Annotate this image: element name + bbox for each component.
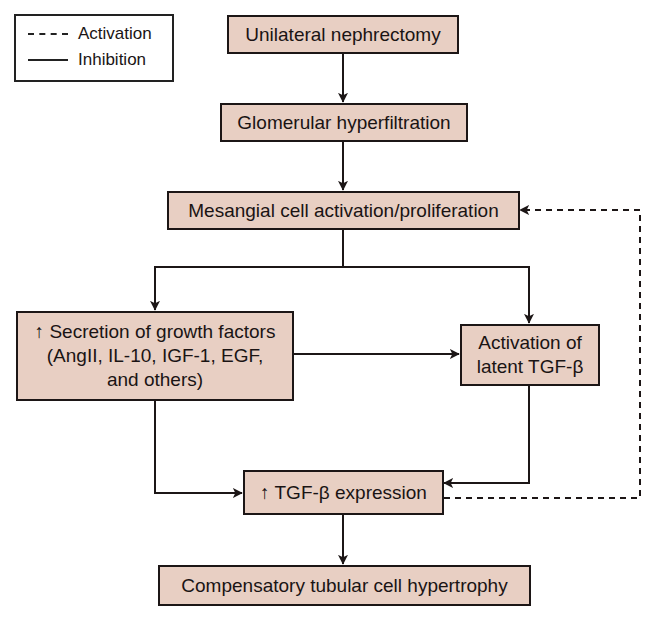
node-label-line-1: Activation of <box>478 331 582 355</box>
edge-n3-n4 <box>155 267 343 310</box>
node-growth-factor-secretion: ↑ Secretion of growth factors (AngII, IL… <box>16 311 294 401</box>
node-glomerular-hyperfiltration: Glomerular hyperfiltration <box>220 103 468 142</box>
dashed-line-sample <box>28 33 68 35</box>
legend-label: Inhibition <box>78 50 146 70</box>
connector-layer <box>0 0 653 620</box>
node-tgf-expression: ↑ TGF-β expression <box>243 470 444 515</box>
node-label: ↑ TGF-β expression <box>260 481 427 505</box>
node-label: Unilateral nephrectomy <box>245 23 440 47</box>
node-latent-tgf-activation: Activation of latent TGF-β <box>460 324 600 386</box>
node-label: Mesangial cell activation/proliferation <box>188 199 499 223</box>
node-label-line-1: ↑ Secretion of growth factors <box>35 320 276 344</box>
node-label: Compensatory tubular cell hypertrophy <box>181 574 507 598</box>
node-unilateral-nephrectomy: Unilateral nephrectomy <box>227 15 459 54</box>
solid-line-sample <box>28 59 68 61</box>
node-label-line-2: latent TGF-β <box>477 355 584 379</box>
node-label-line-2: (AngII, IL-10, IGF-1, EGF, <box>47 344 263 368</box>
edge-n3-n5 <box>343 267 529 323</box>
edge-n5-n6 <box>444 385 529 483</box>
legend-label: Activation <box>78 24 152 44</box>
node-label: Glomerular hyperfiltration <box>237 111 450 135</box>
legend-item-inhibition: Inhibition <box>28 50 146 70</box>
legend-item-activation: Activation <box>28 24 152 44</box>
edge-n4-n6 <box>155 400 242 493</box>
node-label-line-3: and others) <box>107 368 203 392</box>
legend: Activation Inhibition <box>14 14 174 82</box>
node-tubular-hypertrophy: Compensatory tubular cell hypertrophy <box>158 565 531 606</box>
node-mesangial-activation: Mesangial cell activation/proliferation <box>167 191 520 230</box>
